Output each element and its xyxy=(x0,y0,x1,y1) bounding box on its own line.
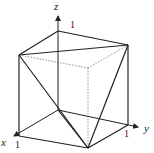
y-axis-label: y xyxy=(143,122,149,134)
x-axis xyxy=(14,110,58,136)
hidden-edges xyxy=(19,45,128,148)
y-tick-label: 1 xyxy=(124,128,129,139)
z-axis-label: z xyxy=(53,0,59,12)
z-tick-label: 1 xyxy=(70,19,75,30)
x-tick-label: 1 xyxy=(15,139,20,150)
x-axis-label: x xyxy=(0,136,6,148)
tetrahedron-edges xyxy=(19,45,128,148)
cube-diagram: z 1 x 1 y 1 xyxy=(0,0,154,153)
